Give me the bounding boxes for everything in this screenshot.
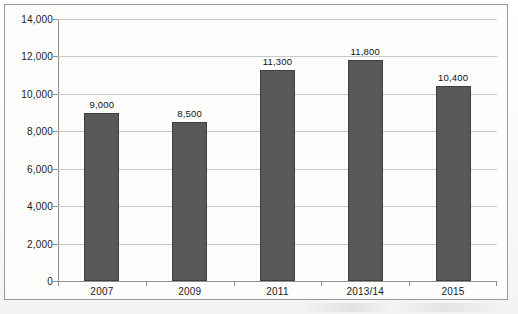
bar bbox=[172, 122, 207, 281]
x-axis-tick-label: 2011 bbox=[266, 286, 288, 297]
y-axis-tick-label: 8,000 bbox=[27, 126, 53, 137]
bar bbox=[84, 113, 119, 281]
y-axis-tick-label: 6,000 bbox=[27, 163, 53, 174]
y-axis-tick bbox=[53, 206, 58, 207]
bar bbox=[260, 70, 295, 281]
bar-value-label: 10,400 bbox=[438, 72, 468, 83]
bar-value-label: 11,300 bbox=[263, 56, 293, 67]
y-axis-tick bbox=[53, 19, 58, 20]
bar-chart-figure: 02,0004,0006,0008,00010,00012,00014,000 … bbox=[0, 0, 518, 314]
y-axis-labels: 02,0004,0006,0008,00010,00012,00014,000 bbox=[5, 19, 53, 281]
y-axis-tick-label: 4,000 bbox=[27, 201, 53, 212]
plot-area: 9,0008,50011,30011,80010,400 bbox=[58, 19, 497, 281]
chart-plot-border: 02,0004,0006,0008,00010,00012,00014,000 … bbox=[4, 4, 508, 300]
gridline bbox=[58, 19, 497, 20]
y-axis-tick bbox=[53, 131, 58, 132]
bar bbox=[348, 60, 383, 281]
y-axis-tick bbox=[53, 56, 58, 57]
y-axis-tick bbox=[53, 244, 58, 245]
y-axis-tick bbox=[53, 169, 58, 170]
x-axis-tick-label: 2013/14 bbox=[347, 286, 385, 297]
y-axis-tick bbox=[53, 94, 58, 95]
y-axis-tick-label: 14,000 bbox=[21, 14, 53, 25]
x-axis-baseline bbox=[58, 281, 497, 282]
bar-value-label: 11,800 bbox=[351, 46, 381, 57]
bar bbox=[436, 86, 471, 281]
x-axis-tick-label: 2007 bbox=[90, 286, 113, 297]
y-axis-tick-label: 12,000 bbox=[21, 51, 53, 62]
bar-value-label: 8,500 bbox=[177, 108, 202, 119]
x-axis-labels: 2007200920112013/142015 bbox=[58, 286, 497, 302]
y-axis-line bbox=[58, 19, 59, 282]
x-axis-tick-label: 2015 bbox=[442, 286, 465, 297]
y-axis-tick-label: 2,000 bbox=[27, 238, 53, 249]
bar-value-label: 9,000 bbox=[90, 99, 115, 110]
y-axis-tick-label: 10,000 bbox=[21, 88, 53, 99]
x-axis-tick-label: 2009 bbox=[178, 286, 201, 297]
scan-artifact bbox=[300, 303, 505, 312]
